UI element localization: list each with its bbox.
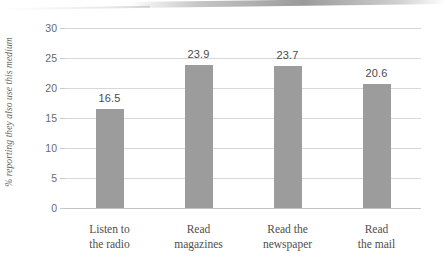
y-axis-tick-label: 15 [31, 113, 57, 123]
y-axis-tick-label: 25 [31, 53, 57, 63]
bar [185, 65, 213, 208]
y-axis-tick-mark [60, 208, 65, 209]
bar-value-label: 23.7 [258, 49, 318, 61]
gridline [65, 208, 421, 209]
bar-value-label: 23.9 [169, 48, 229, 60]
y-axis-tick-label: 0 [31, 203, 57, 213]
y-axis-tick-mark [60, 58, 65, 59]
bar [96, 109, 124, 208]
y-axis-tick-label: 20 [31, 83, 57, 93]
y-axis-tick-mark [60, 148, 65, 149]
bar-value-label: 20.6 [347, 67, 407, 79]
gridline [65, 28, 421, 29]
y-axis-tick-mark [60, 88, 65, 89]
y-axis-tick-label: 5 [31, 173, 57, 183]
bar-chart: % reporting they also use this medium 05… [0, 0, 445, 270]
scan-artifact-line-secondary [0, 6, 150, 10]
y-axis-tick-mark [60, 118, 65, 119]
bar [274, 66, 302, 208]
y-axis-tick-mark [60, 28, 65, 29]
scan-artifact-line [130, 0, 445, 8]
y-axis-tick-label: 30 [31, 23, 57, 33]
x-axis-category-label: Readthe mail [322, 222, 432, 252]
gridline [65, 58, 421, 59]
x-axis-category-label-line: the mail [322, 237, 432, 252]
bar-value-label: 16.5 [80, 92, 140, 104]
plot-area [65, 28, 421, 208]
y-axis-title: % reporting they also use this medium [2, 18, 16, 206]
x-axis-category-label-line: Read [322, 222, 432, 237]
y-axis-tick-label: 10 [31, 143, 57, 153]
y-axis-tick-mark [60, 178, 65, 179]
bar [363, 84, 391, 208]
